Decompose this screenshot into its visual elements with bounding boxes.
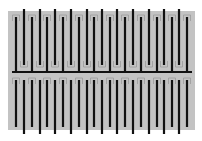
interdigitated-pattern-diagram xyxy=(0,0,202,141)
